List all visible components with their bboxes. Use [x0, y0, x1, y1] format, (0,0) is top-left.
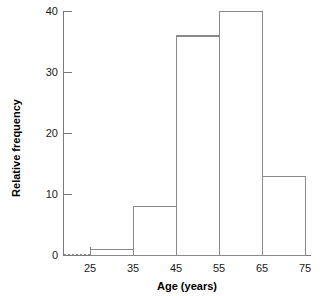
x-axis-title: Age (years)	[157, 280, 217, 292]
chart-canvas: 40 30 20 10 0 25 35 45 55 65 75	[0, 0, 325, 296]
y-axis-tick-labels: 40 30 20 10 0	[46, 5, 58, 261]
y-tick-label-40: 40	[46, 5, 58, 17]
histogram-bar	[263, 176, 306, 255]
y-axis-ticks	[64, 12, 73, 256]
y-tick-label-10: 10	[46, 188, 58, 200]
x-tick-label-65: 65	[256, 262, 268, 274]
x-tick-label-75: 75	[299, 262, 311, 274]
histogram-bar	[177, 36, 220, 256]
x-tick-label-25: 25	[84, 262, 96, 274]
x-axis-tick-labels: 25 35 45 55 65 75	[84, 262, 311, 274]
histogram-bar	[134, 207, 177, 256]
y-tick-label-20: 20	[46, 127, 58, 139]
histogram-chart: 40 30 20 10 0 25 35 45 55 65 75	[0, 0, 325, 296]
histogram-bar	[220, 12, 263, 256]
histogram-bar	[91, 249, 134, 255]
y-axis-title: Relative frequency	[10, 98, 22, 197]
x-tick-label-55: 55	[213, 262, 225, 274]
y-tick-label-0: 0	[52, 249, 58, 261]
histogram-bars	[91, 12, 306, 256]
x-tick-label-35: 35	[127, 262, 139, 274]
x-tick-label-45: 45	[170, 262, 182, 274]
y-tick-label-30: 30	[46, 66, 58, 78]
